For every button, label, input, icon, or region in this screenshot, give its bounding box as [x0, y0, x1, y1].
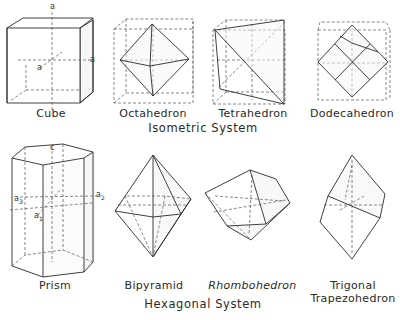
crystal-forms-drawing [0, 0, 400, 320]
prism-axis-a1-label: a1 [34, 211, 43, 222]
cube-figure [7, 12, 93, 112]
prism-axis-a3-label: a3 [14, 194, 23, 205]
form-label-trigonal: Trigonal [318, 279, 388, 292]
prism-axis-c-label: c [50, 143, 54, 152]
prism-axis-a2-label: a2 [96, 190, 105, 201]
system-label-hexagonal: Hexagonal System [133, 297, 273, 311]
cube-axis-top-label: a [50, 2, 55, 11]
form-label-octahedron: Octahedron [113, 107, 193, 120]
tetrahedron-figure [213, 20, 285, 104]
form-label-dodecahedron: Dodecahedron [309, 107, 395, 120]
system-label-isometric: Isometric System [133, 121, 273, 135]
rhombohedron-figure [205, 170, 290, 240]
form-label-prism: Prism [30, 279, 80, 292]
form-label-tetrahedron: Tetrahedron [215, 107, 291, 120]
form-label-bipyramid: Bipyramid [118, 279, 190, 292]
dodecahedron-figure [318, 22, 390, 100]
cube-axis-front-label: a [37, 63, 42, 72]
bipyramid-figure [115, 155, 191, 257]
form-label-trapezohedron: Trapezohedron [306, 292, 400, 305]
cube-axis-right-label: a [90, 55, 95, 64]
trigonal-trapezohedron-figure [320, 155, 385, 259]
octahedron-figure [114, 19, 193, 103]
form-label-cube: Cube [26, 107, 76, 120]
prism-figure [10, 144, 97, 277]
form-label-rhombohedron: Rhombohedron [205, 279, 300, 292]
